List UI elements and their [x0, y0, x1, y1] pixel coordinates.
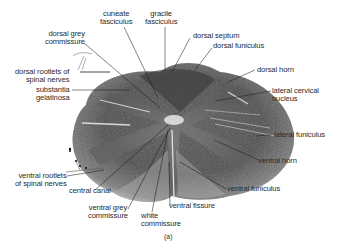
label-lateral-cervical-nucleus: lateral cervical nucleus [272, 87, 319, 104]
label-substantia-gelatinosa: substantia gelatinosa [36, 86, 70, 103]
faint-footer-text: · · · [2, 243, 8, 248]
spinal-cord-cross-section [73, 63, 295, 202]
label-ventral-fissure: ventral fissure [169, 202, 215, 210]
label-lateral-funiculus: lateral funiculus [274, 131, 325, 139]
dorsal-rootlets-drawing [73, 53, 110, 72]
label-ventral-horn: ventral horn [258, 157, 297, 165]
label-dorsal-horn: dorsal horn [257, 66, 294, 74]
label-dorsal-rootlets: dorsal rootlets of spinal nerves [15, 68, 69, 85]
label-ventral-rootlets: ventral rootlets of spinal nerves [15, 172, 67, 189]
label-dorsal-grey-commissure: dorsal grey commissure [45, 30, 85, 47]
label-ventral-funiculus: ventral funiculus [227, 185, 280, 193]
label-cuneate-fasciculus: cuneate fasciculus [100, 10, 132, 27]
label-gracile-fasciculus: gracile fasciculus [145, 10, 177, 27]
label-dorsal-septum: dorsal septum [193, 32, 239, 40]
label-central-canal: central canal [69, 187, 111, 195]
figure-caption: (a) [164, 233, 173, 240]
label-ventral-grey-commissure: ventral grey commissure [88, 204, 128, 221]
label-white-commissure: white commissure [141, 212, 181, 229]
label-dorsal-funiculus: dorsal funiculus [213, 42, 264, 50]
